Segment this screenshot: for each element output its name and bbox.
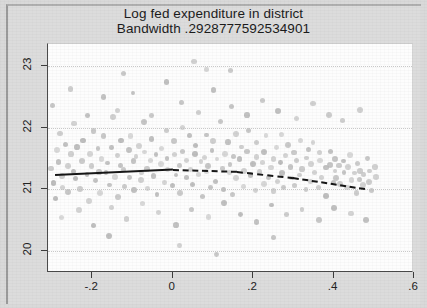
scatter-point <box>285 142 291 148</box>
scatter-point <box>363 217 369 223</box>
scatter-point <box>158 161 164 167</box>
scatter-point <box>241 184 246 189</box>
screenshot-root: Log fed expenditure in district Bandwidt… <box>0 0 427 308</box>
scatter-point <box>310 101 316 107</box>
scatter-point <box>361 172 366 177</box>
scatter-point <box>128 133 134 139</box>
scatter-point <box>253 188 258 193</box>
x-tick-label-2: .2 <box>237 280 267 292</box>
scatter-point <box>110 114 116 120</box>
scatter-point <box>369 188 375 194</box>
scatter-point <box>138 177 144 183</box>
scatter-point <box>326 112 332 118</box>
scatter-point <box>131 187 137 193</box>
scatter-point <box>210 138 216 144</box>
scatter-point <box>91 128 97 134</box>
scatter-point <box>65 189 71 195</box>
scatter-point <box>177 243 182 248</box>
scatter-point <box>196 172 201 177</box>
scatter-point <box>126 147 132 153</box>
scatter-point <box>124 216 130 222</box>
y-tick-label-20: 20 <box>21 238 33 260</box>
scatter-point <box>354 190 360 196</box>
scatter-point <box>306 147 311 152</box>
scatter-point <box>172 152 177 157</box>
y-tick-mark-20 <box>41 250 47 251</box>
scatter-point <box>79 158 85 164</box>
plot-area <box>47 43 413 272</box>
scatter-point <box>173 222 179 228</box>
scatter-point <box>109 205 114 210</box>
x-tick-mark-4 <box>413 272 414 278</box>
scatter-point <box>196 110 201 115</box>
scatter-point <box>140 201 145 206</box>
scatter-point <box>221 200 227 206</box>
scatter-point <box>165 156 170 161</box>
scatter-point <box>191 59 197 65</box>
scatter-point <box>304 187 309 192</box>
y-tick-label-23: 23 <box>21 53 33 75</box>
scatter-point <box>53 196 58 201</box>
x-tick-label-0: -.2 <box>76 280 106 292</box>
scatter-point <box>294 158 299 163</box>
scatter-point <box>65 163 71 169</box>
scatter-point <box>367 169 372 174</box>
scatter-point <box>341 159 346 164</box>
scatter-point <box>131 158 137 164</box>
scatter-point <box>101 133 107 139</box>
scatter-point <box>294 116 300 122</box>
scatter-point <box>348 211 354 217</box>
scatter-point <box>179 100 184 105</box>
scatter-point <box>271 156 276 161</box>
scatter-point <box>299 166 305 172</box>
gridline-y-22 <box>48 128 412 129</box>
scatter-point <box>352 171 357 176</box>
scatter-point <box>366 179 372 185</box>
scatter-point <box>229 104 234 109</box>
scatter-point <box>372 164 378 170</box>
scatter-point <box>149 113 154 118</box>
x-tick-label-4: .6 <box>398 280 427 292</box>
scatter-point <box>154 152 159 157</box>
scatter-point <box>164 128 170 134</box>
scatter-point <box>340 118 345 123</box>
scatter-point <box>171 138 177 144</box>
x-tick-mark-0 <box>91 272 92 278</box>
scatter-point <box>238 212 243 217</box>
scatter-point <box>298 138 304 144</box>
scatter-point <box>190 182 195 187</box>
scatter-point <box>332 156 338 162</box>
scatter-point <box>59 215 64 220</box>
scatter-point <box>210 148 215 153</box>
scatter-point <box>106 233 112 239</box>
scatter-point <box>76 207 82 213</box>
scatter-point <box>170 183 175 188</box>
scatter-point <box>180 125 185 130</box>
scatter-point <box>239 145 244 150</box>
scatter-point <box>213 179 218 184</box>
scatter-point <box>48 166 53 171</box>
scatter-point <box>233 175 239 181</box>
scatter-point <box>134 154 139 159</box>
scatter-point <box>177 163 182 168</box>
scatter-point <box>333 169 338 174</box>
scatter-point <box>189 207 194 212</box>
scatter-point <box>193 143 198 148</box>
scatter-point <box>271 235 276 240</box>
scatter-point <box>297 173 302 178</box>
scatter-point <box>222 151 228 157</box>
y-tick-mark-21 <box>41 188 47 189</box>
scatter-point <box>355 161 360 166</box>
scatter-point <box>208 185 213 190</box>
scatter-point <box>260 160 265 165</box>
scatter-point <box>214 252 219 257</box>
scatter-point <box>187 133 192 138</box>
scatter-point <box>261 149 267 155</box>
scatter-point <box>87 151 93 157</box>
scatter-point <box>349 177 355 183</box>
scatter-point <box>96 146 101 151</box>
scatter-point <box>101 94 106 99</box>
chart-title: Log fed expenditure in district Bandwidt… <box>0 6 427 36</box>
scatter-point <box>202 155 207 160</box>
gridline-y-23 <box>48 66 412 67</box>
